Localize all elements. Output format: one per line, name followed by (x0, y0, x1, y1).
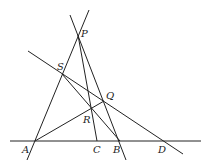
line-sb (62, 74, 120, 141)
label-b: B (112, 144, 120, 155)
label-c: C (93, 144, 101, 155)
line-pc (78, 35, 97, 141)
label-p: P (80, 28, 88, 39)
label-a: A (21, 144, 29, 155)
label-d: D (157, 144, 166, 155)
geometry-diagram: P S Q R A C B D (0, 0, 211, 167)
label-q: Q (106, 90, 114, 101)
label-s: S (57, 61, 64, 72)
label-r: R (82, 114, 91, 125)
